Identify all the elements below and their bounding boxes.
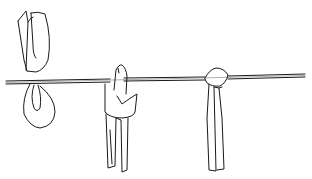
loop-below-rope xyxy=(24,84,55,128)
illustration-canvas xyxy=(0,0,312,179)
folded-loop-top xyxy=(18,11,49,72)
round-knot xyxy=(205,68,228,171)
knot-illustration xyxy=(0,0,312,179)
rope xyxy=(6,74,305,84)
